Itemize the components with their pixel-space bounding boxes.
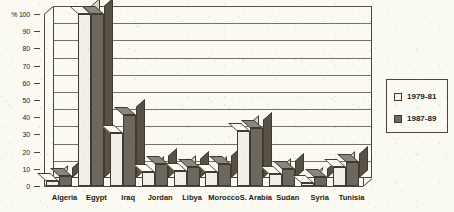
depth-edge-bottom-right xyxy=(363,178,373,187)
legend-swatch-light xyxy=(394,93,402,101)
x-axis-label-syria: Syria xyxy=(310,194,328,202)
x-axis-label-algeria: Algeria xyxy=(52,194,77,202)
bar-libya-1987-89 xyxy=(187,167,200,186)
y-axis-tick-mark xyxy=(34,100,40,101)
bar-front-face xyxy=(110,133,123,186)
bar-front-face xyxy=(237,131,250,186)
bar-front-face xyxy=(123,115,136,186)
legend-item-1979-81[interactable]: 1979-81 xyxy=(394,93,436,101)
bar-front-face xyxy=(78,14,91,186)
bar-front-face xyxy=(269,174,282,186)
depth-edge-top-left xyxy=(44,6,54,15)
legend-label: 1987-89 xyxy=(407,115,436,123)
bar-egypt-1979-81 xyxy=(78,14,91,186)
y-axis-tick-label: % 100 xyxy=(11,11,30,18)
bar-front-face xyxy=(142,172,155,186)
y-axis-tick-mark xyxy=(34,152,40,153)
y-axis-line xyxy=(44,14,45,186)
bar-front-face xyxy=(91,14,104,186)
bar-sarabia-1979-81 xyxy=(237,131,250,186)
y-axis-tick-label: 40 xyxy=(23,114,30,121)
y-axis-tick-label: 50 xyxy=(23,97,30,104)
x-axis-label-sarabia: S. Arabia xyxy=(240,194,272,202)
bar-front-face xyxy=(187,167,200,186)
x-axis-label-libya: Libya xyxy=(182,194,202,202)
bar-front-face xyxy=(346,162,359,186)
bar-syria-1979-81 xyxy=(301,183,314,186)
bar-egypt-1987-89 xyxy=(91,14,104,186)
x-axis-label-sudan: Sudan xyxy=(276,194,299,202)
y-axis-tick-label: 70 xyxy=(23,62,30,69)
y-axis-tick-label: 20 xyxy=(23,148,30,155)
y-axis-tick-mark xyxy=(34,14,40,15)
bar-front-face xyxy=(282,169,295,186)
bar-front-face xyxy=(301,183,314,186)
y-axis-tick-mark xyxy=(34,48,40,49)
bar-sudan-1979-81 xyxy=(269,174,282,186)
y-axis-tick-mark xyxy=(34,169,40,170)
x-axis-label-iraq: Iraq xyxy=(121,194,135,202)
bar-morocco-1987-89 xyxy=(218,164,231,186)
bar-front-face xyxy=(155,164,168,186)
bar-front-face xyxy=(174,171,187,186)
y-axis-tick-mark xyxy=(34,31,40,32)
x-axis-label-egypt: Egypt xyxy=(86,194,107,202)
bar-front-face xyxy=(205,172,218,186)
bar-libya-1979-81 xyxy=(174,171,187,186)
gridline xyxy=(53,6,372,7)
legend-label: 1979-81 xyxy=(407,93,436,101)
y-axis-tick-label: 60 xyxy=(23,79,30,86)
y-axis-tick-mark xyxy=(34,117,40,118)
bar-syria-1987-89 xyxy=(314,177,327,186)
x-axis-label-morocco: Morocco xyxy=(208,194,239,202)
x-axis-label-jordan: Jordan xyxy=(148,194,173,202)
y-axis-tick-mark xyxy=(34,186,40,187)
bar-tunisia-1979-81 xyxy=(333,167,346,186)
bar-tunisia-1987-89 xyxy=(346,162,359,186)
y-axis-tick-mark xyxy=(34,66,40,67)
bar-iraq-1987-89 xyxy=(123,115,136,186)
legend-item-1987-89[interactable]: 1987-89 xyxy=(394,115,436,123)
y-axis-tick-mark xyxy=(34,134,40,135)
bar-front-face xyxy=(314,177,327,186)
bar-iraq-1979-81 xyxy=(110,133,123,186)
bar-chart: 0102030405060708090% 100 AlgeriaEgyptIra… xyxy=(0,0,454,212)
y-axis-tick-label: 10 xyxy=(23,165,30,172)
bar-front-face xyxy=(218,164,231,186)
legend-swatch-dark xyxy=(394,115,402,123)
x-axis-label-tunisia: Tunisia xyxy=(339,194,365,202)
y-axis-tick-label: 90 xyxy=(23,28,30,35)
bar-morocco-1979-81 xyxy=(205,172,218,186)
chart-legend: 1979-811987-89 xyxy=(386,79,448,133)
bar-sarabia-1987-89 xyxy=(250,128,263,186)
y-axis-tick-label: 30 xyxy=(23,131,30,138)
bar-front-face xyxy=(59,176,72,186)
bar-jordan-1987-89 xyxy=(155,164,168,186)
bar-front-face xyxy=(250,128,263,186)
bar-algeria-1979-81 xyxy=(46,181,59,186)
y-axis-tick-label: 0 xyxy=(26,183,30,190)
bar-jordan-1979-81 xyxy=(142,172,155,186)
bar-algeria-1987-89 xyxy=(59,176,72,186)
plot-right-edge xyxy=(363,178,364,186)
bar-sudan-1987-89 xyxy=(282,169,295,186)
y-axis-tick-mark xyxy=(34,83,40,84)
x-axis-line xyxy=(44,186,363,187)
y-axis-tick-label: 80 xyxy=(23,45,30,52)
bar-front-face xyxy=(46,181,59,186)
bar-front-face xyxy=(333,167,346,186)
